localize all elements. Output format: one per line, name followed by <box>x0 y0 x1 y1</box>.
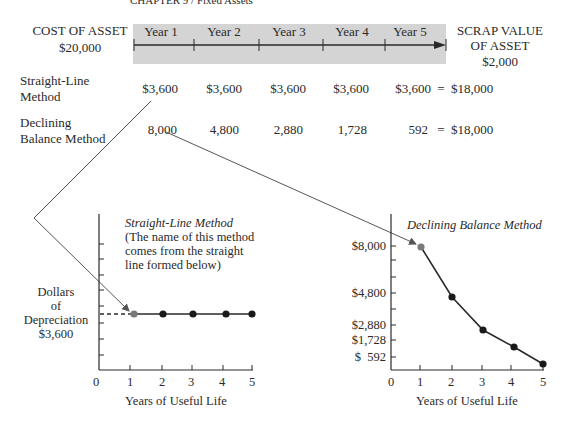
scrap-value-amount: $2,000 <box>482 54 518 69</box>
depreciation-diagram: CHAPTER 9 / Fixed Assets COST OF ASSET $… <box>0 0 566 429</box>
data-line <box>421 247 543 364</box>
data-point <box>510 343 517 350</box>
x-tick-label: 5 <box>540 375 546 389</box>
equals-sign: = <box>437 81 444 96</box>
x-axis-ticks <box>420 365 543 370</box>
declining-balance-value: 592 <box>409 122 429 137</box>
x-tick-label: 3 <box>188 375 194 389</box>
straight-line-total: $18,000 <box>451 81 493 96</box>
data-point <box>130 310 137 317</box>
straight-line-value: $3,600 <box>270 81 306 96</box>
declining-balance-label: Declining <box>20 115 72 130</box>
x-tick-label: 4 <box>508 375 515 389</box>
y-tick-label: $ 592 <box>355 350 386 364</box>
declining-balance-label: Balance Method <box>20 131 106 146</box>
scrap-value-label: SCRAP VALUE <box>457 23 543 38</box>
running-header: CHAPTER 9 / Fixed Assets <box>130 0 253 6</box>
data-point <box>539 360 546 367</box>
y-axis-ticks <box>391 246 396 357</box>
x-tick-label: 1 <box>127 375 133 389</box>
straight-line-value: $3,600 <box>142 81 178 96</box>
x-tick-label: 2 <box>448 375 454 389</box>
data-point <box>479 326 486 333</box>
data-point <box>448 293 455 300</box>
data-point <box>417 243 424 250</box>
straight-line-value: $3,600 <box>333 81 369 96</box>
declining-balance-value: 1,728 <box>338 122 367 137</box>
scrap-value-label: OF ASSET <box>471 38 530 53</box>
x-tick-label: 5 <box>249 375 255 389</box>
timeline: COST OF ASSET $20,000 Year 1 Year 2 Year… <box>32 23 543 69</box>
chart-subtitle: comes from the straight <box>125 244 244 258</box>
declining-balance-value: 2,880 <box>274 122 303 137</box>
x-tick-label: 0 <box>388 375 394 389</box>
straight-line-label: Method <box>20 89 61 104</box>
year-label: Year 1 <box>144 24 178 39</box>
y-axis-label: Depreciation <box>24 313 89 327</box>
declining-balance-value: 4,800 <box>210 122 239 137</box>
declining-balance-chart: Declining Balance Method $8,000 $4,800 $… <box>352 214 547 408</box>
declining-balance-total: $18,000 <box>451 122 493 137</box>
straight-line-label: Straight-Line <box>20 73 90 88</box>
equals-sign: = <box>437 122 444 137</box>
x-tick-label: 4 <box>219 375 226 389</box>
data-point <box>159 310 166 317</box>
x-axis-label: Years of Useful Life <box>416 394 518 408</box>
y-axis-label: of <box>51 299 62 313</box>
x-tick-label: 2 <box>159 375 165 389</box>
chart-title: Declining Balance Method <box>406 218 542 232</box>
y-axis-ticks <box>99 244 104 355</box>
chart-subtitle: line formed below) <box>125 258 221 272</box>
y-tick-label: $2,880 <box>352 318 386 332</box>
cost-of-asset-label: COST OF ASSET <box>32 23 127 38</box>
declining-balance-row: Declining Balance Method 8,000 4,800 2,8… <box>20 115 493 146</box>
x-tick-label: 3 <box>479 375 485 389</box>
year-label: Year 4 <box>335 24 369 39</box>
data-point <box>248 310 255 317</box>
straight-line-chart: Straight-Line Method (The name of this m… <box>24 214 256 408</box>
chart-title: Straight-Line Method <box>125 216 234 230</box>
straight-line-value: $3,600 <box>206 81 242 96</box>
y-tick-label: $8,000 <box>352 239 386 253</box>
data-point <box>222 310 229 317</box>
data-point <box>189 310 196 317</box>
x-axis-label: Years of Useful Life <box>125 394 227 408</box>
x-tick-label: 0 <box>93 375 99 389</box>
year-label: Year 2 <box>207 24 241 39</box>
y-axis-label: Dollars <box>38 285 75 299</box>
straight-line-row: Straight-Line Method $3,600 $3,600 $3,60… <box>20 73 493 104</box>
y-axis-label: $3,600 <box>39 327 73 341</box>
year-label: Year 5 <box>393 24 427 39</box>
x-axis-ticks <box>130 365 252 370</box>
y-tick-label: $1,728 <box>352 333 386 347</box>
y-tick-label: $4,800 <box>352 286 386 300</box>
x-tick-label: 1 <box>417 375 423 389</box>
cost-of-asset-value: $20,000 <box>59 40 101 55</box>
chart-subtitle: (The name of this method <box>125 230 255 244</box>
straight-line-value: $3,600 <box>395 81 431 96</box>
year-label: Year 3 <box>272 24 306 39</box>
